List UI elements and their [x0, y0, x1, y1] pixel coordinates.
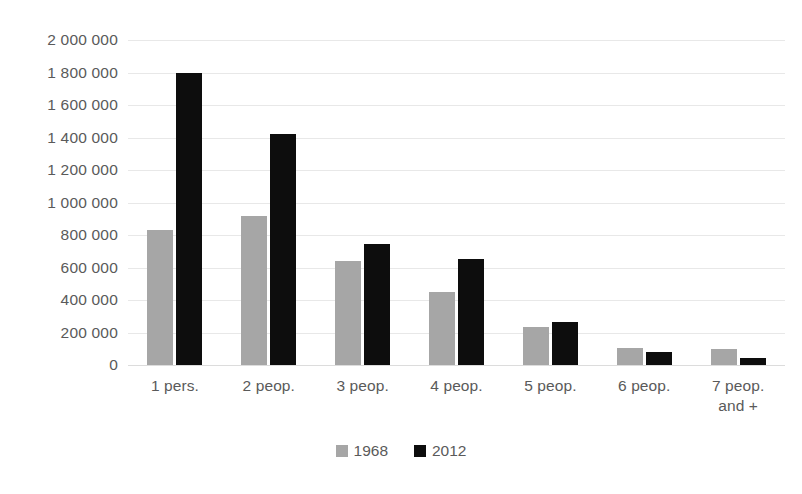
x-axis-tick-label: 6 peop. — [597, 368, 691, 428]
x-axis-tick-line: 3 peop. — [336, 377, 388, 394]
x-axis-tick-label: 2 peop. — [222, 368, 316, 428]
bar — [335, 261, 361, 365]
legend-item[interactable]: 2012 — [414, 443, 466, 459]
y-axis-tick-label: 1 600 000 — [0, 97, 118, 113]
legend-swatch-icon — [336, 445, 348, 457]
bar — [241, 216, 267, 366]
bar — [147, 230, 173, 365]
bar — [364, 244, 390, 365]
x-axis-tick-line: 1 pers. — [151, 377, 199, 394]
bar-group — [128, 40, 222, 365]
x-axis-tick-label: 7 peop.and + — [691, 368, 785, 428]
y-axis: 2 000 0001 800 0001 600 0001 400 0001 20… — [0, 40, 118, 365]
x-axis-tick-label: 1 pers. — [128, 368, 222, 428]
bar — [458, 259, 484, 365]
legend-label: 1968 — [354, 443, 388, 459]
y-axis-tick-label: 2 000 000 — [0, 32, 118, 48]
bar-group — [410, 40, 504, 365]
x-axis-tick-line: 2 peop. — [243, 377, 295, 394]
x-axis-tick-label: 5 peop. — [503, 368, 597, 428]
x-axis-tick-line: 6 peop. — [618, 377, 670, 394]
y-axis-tick-label: 1 200 000 — [0, 162, 118, 178]
bar — [740, 358, 766, 365]
y-axis-tick-label: 1 800 000 — [0, 65, 118, 81]
x-axis-tick-label: 3 peop. — [316, 368, 410, 428]
bar-group — [316, 40, 410, 365]
bar-group — [691, 40, 785, 365]
bar-group — [222, 40, 316, 365]
x-axis-tick-line: 7 peop. — [712, 377, 764, 394]
y-axis-tick-label: 800 000 — [0, 227, 118, 243]
chart-legend: 19682012 — [0, 443, 802, 459]
bar — [552, 322, 578, 365]
y-axis-tick-label: 400 000 — [0, 292, 118, 308]
y-axis-tick-label: 600 000 — [0, 260, 118, 276]
x-axis-tick-line: 4 peop. — [430, 377, 482, 394]
bar-group — [597, 40, 691, 365]
bar — [176, 73, 202, 365]
bar — [711, 349, 737, 365]
legend-item[interactable]: 1968 — [336, 443, 388, 459]
y-axis-tick-label: 200 000 — [0, 325, 118, 341]
bar-group — [503, 40, 597, 365]
y-axis-tick-label: 1 400 000 — [0, 130, 118, 146]
x-axis-tick-line: and + — [691, 396, 785, 416]
x-axis-tick-line: 5 peop. — [524, 377, 576, 394]
legend-label: 2012 — [432, 443, 466, 459]
bar — [617, 348, 643, 365]
plot-area — [128, 40, 785, 365]
bar — [523, 327, 549, 365]
bar-chart: 2 000 0001 800 0001 600 0001 400 0001 20… — [0, 0, 802, 494]
bar — [429, 292, 455, 365]
x-axis: 1 pers.2 peop.3 peop.4 peop.5 peop.6 peo… — [128, 368, 785, 428]
y-axis-tick-label: 0 — [0, 357, 118, 373]
x-axis-tick-label: 4 peop. — [410, 368, 504, 428]
gridline — [128, 365, 785, 366]
legend-swatch-icon — [414, 445, 426, 457]
bar — [646, 352, 672, 365]
y-axis-tick-label: 1 000 000 — [0, 195, 118, 211]
bar-groups — [128, 40, 785, 365]
bar — [270, 134, 296, 365]
